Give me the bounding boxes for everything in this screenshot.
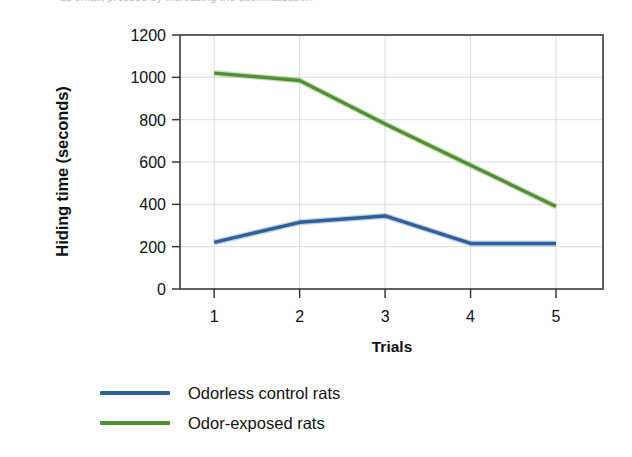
y-tick-label: 600 bbox=[139, 154, 166, 171]
chart-figure: as small, pressed by increasing the accl… bbox=[0, 0, 632, 457]
legend-swatch-line bbox=[100, 421, 170, 425]
legend-swatch-line bbox=[100, 391, 170, 395]
x-tick-label: 1 bbox=[210, 308, 219, 325]
x-tick-label: 2 bbox=[295, 308, 304, 325]
y-tick-label: 800 bbox=[139, 112, 166, 129]
y-tick-label: 200 bbox=[139, 239, 166, 256]
x-tick-label: 3 bbox=[381, 308, 390, 325]
legend-item-odor-exposed-rats: Odor-exposed rats bbox=[100, 408, 520, 438]
y-tick-label: 400 bbox=[139, 196, 166, 213]
y-tick-labels: 020040060080010001200 bbox=[130, 27, 166, 298]
legend-label: Odorless control rats bbox=[188, 384, 340, 403]
y-tick-label: 1200 bbox=[130, 27, 166, 44]
legend-label: Odor-exposed rats bbox=[188, 414, 325, 433]
x-axis-title: Trials bbox=[180, 338, 604, 356]
chart-legend: Odorless control rats Odor-exposed rats bbox=[100, 378, 520, 438]
x-tick-label: 5 bbox=[552, 308, 561, 325]
x-tick-labels: 12345 bbox=[210, 308, 561, 325]
legend-item-odorless-control-rats: Odorless control rats bbox=[100, 378, 520, 408]
y-tick-label: 1000 bbox=[130, 69, 166, 86]
y-tick-label: 0 bbox=[157, 281, 166, 298]
x-tick-label: 4 bbox=[466, 308, 475, 325]
